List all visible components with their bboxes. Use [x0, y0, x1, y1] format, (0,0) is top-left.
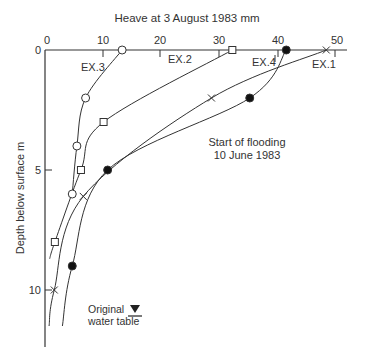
svg-text:50: 50 — [331, 34, 343, 46]
filled-circle-marker — [68, 262, 76, 270]
svg-text:10: 10 — [29, 284, 41, 296]
chart-title: Heave at 3 August 1983 mm — [114, 12, 259, 24]
series-markers — [51, 46, 330, 294]
x-marker — [208, 95, 215, 102]
svg-text:Start of flooding: Start of flooding — [208, 136, 285, 148]
series-curves — [49, 50, 326, 326]
open-square-marker — [77, 167, 84, 174]
x-tick-labels: 0 10 20 30 40 50 — [44, 34, 343, 46]
filled-circle-marker — [282, 46, 290, 54]
filled-circle-marker — [246, 94, 254, 102]
svg-text:0: 0 — [44, 34, 50, 46]
x-ticks — [103, 50, 335, 57]
svg-text:0: 0 — [35, 44, 41, 56]
svg-text:5: 5 — [35, 164, 41, 176]
svg-text:10: 10 — [97, 34, 109, 46]
curve-ex4 — [62, 50, 286, 326]
svg-text:water table: water table — [87, 315, 140, 327]
open-circle-marker — [82, 94, 90, 102]
svg-text:Original: Original — [88, 303, 124, 315]
open-square-marker — [51, 239, 58, 246]
flooding-annotation: Start of flooding 10 June 1983 — [208, 136, 285, 161]
label-ex3: EX.3 — [81, 61, 105, 73]
y-ticks — [45, 170, 52, 290]
heave-depth-chart: Heave at 3 August 1983 mm 0 10 20 30 40 … — [0, 0, 365, 364]
svg-text:40: 40 — [272, 34, 284, 46]
open-circle-marker — [118, 46, 126, 54]
label-ex2: EX.2 — [168, 53, 192, 65]
svg-text:30: 30 — [213, 34, 225, 46]
curve-ex1 — [49, 50, 326, 326]
y-axis-label: Depth below surface m — [14, 142, 26, 255]
open-square-marker — [100, 119, 107, 126]
filled-circle-marker — [104, 166, 112, 174]
svg-text:20: 20 — [154, 34, 166, 46]
open-circle-marker — [73, 142, 81, 150]
label-ex1: EX.1 — [312, 58, 336, 70]
svg-text:10 June 1983: 10 June 1983 — [214, 149, 281, 161]
x-marker — [80, 193, 87, 200]
label-ex4: EX.4 — [252, 56, 276, 68]
open-circle-marker — [68, 190, 76, 198]
curve-ex2 — [50, 50, 233, 259]
open-square-marker — [229, 47, 236, 54]
y-tick-labels: 0 5 10 — [29, 44, 41, 296]
